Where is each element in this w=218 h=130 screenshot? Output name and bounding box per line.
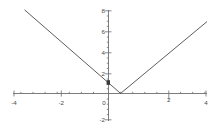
x-tick-label-neg4: -4 [11,99,17,106]
y-tick-label-neg2: -2 [99,116,105,123]
x-tick-label-pos4: 4 [204,99,208,106]
y-tick-label-6: 6 [102,28,106,35]
x-tick-label-pos2: 2 [167,96,171,103]
x-axis-major-ticks [14,91,206,100]
plot-figure: -4 -2 0 2 4 8 6 4 2 -2 [0,0,218,130]
abs-value-curve [25,10,208,94]
y-tick-label-4: 4 [102,49,106,56]
y-tick-label-2: 2 [102,70,106,77]
x-tick-label-neg2: -2 [59,99,65,106]
plot-canvas: -4 -2 0 2 4 8 6 4 2 -2 [0,0,218,130]
x-tick-label-zero: 0 [102,99,106,106]
y-intercept-marker [107,80,110,85]
y-tick-label-8: 8 [102,7,106,14]
